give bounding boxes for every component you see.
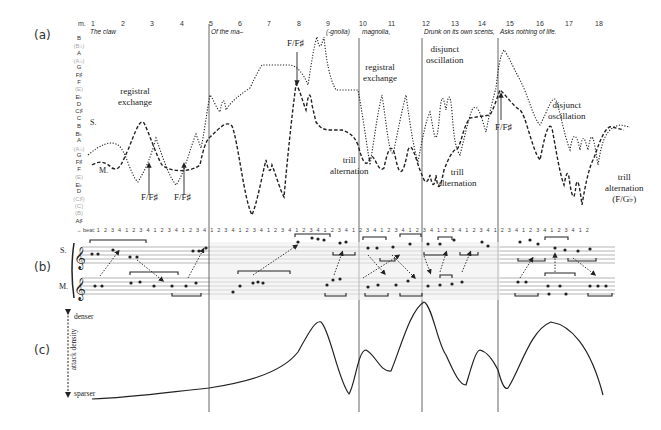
annotation-ff-sharp-3: F/F♯ — [287, 38, 304, 49]
annotation-disjunct-oscillation-2: disjunct oscillation — [548, 100, 586, 122]
beat-row: → beat: 1 2 3 4 1 2 3 4 1 2 3 4 1 2 3 4 … — [76, 227, 589, 233]
beat-numbers: 1 2 3 4 1 2 3 4 1 2 3 4 1 2 3 4 1 2 3 4 … — [97, 227, 589, 233]
diagram-canvas: 𝄞 𝄞 — [0, 0, 661, 430]
staff-label-soprano: S. — [60, 245, 66, 256]
staff-label-mezzo: M. — [59, 281, 68, 292]
label-sparser: sparser — [74, 389, 95, 398]
annotation-ff-sharp-4: F/F♯ — [495, 122, 512, 133]
mezzo-contour — [92, 84, 624, 215]
annotation-ff-sharp-1: F/F♯ — [141, 192, 158, 203]
axis-title-attack-density: attack density — [69, 320, 78, 380]
annotation-registral-exchange-1: registral exchange — [118, 86, 152, 108]
beat-prefix: → beat: — [76, 227, 95, 233]
voice-label-mezzo-a: M. — [99, 165, 108, 176]
annotation-trill-alternation-3: trill alternation (F/G♭) — [605, 172, 643, 205]
annotation-disjunct-oscillation-1: disjunct oscillation — [426, 44, 464, 66]
treble-clef-soprano: 𝄞 — [74, 246, 86, 270]
annotation-trill-alternation-1: trill alternation — [330, 155, 368, 177]
annotation-registral-exchange-2: registral exchange — [363, 62, 397, 84]
density-curve — [92, 302, 603, 399]
annotation-trill-alternation-2: trill alternation — [438, 167, 476, 189]
annotation-ff-sharp-2: F/F♯ — [174, 192, 191, 203]
voice-label-soprano-a: S. — [90, 117, 96, 128]
treble-clef-mezzo: 𝄞 — [74, 277, 86, 301]
